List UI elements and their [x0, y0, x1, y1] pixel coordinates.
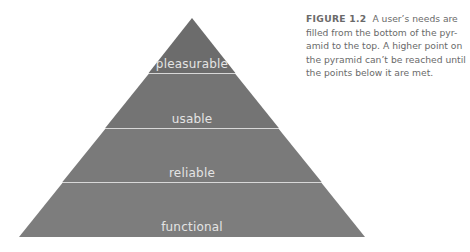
level-label-reliable: reliable	[92, 166, 292, 180]
level-label-functional: functional	[92, 220, 292, 234]
level-label-pleasurable: pleasurable	[92, 57, 292, 71]
level-label-usable: usable	[92, 112, 292, 126]
caption-line: the points below it are met.	[306, 66, 468, 80]
caption-line: the pyramid can’t be reached until	[306, 53, 468, 67]
figure-label: FIGURE 1.2	[306, 13, 367, 24]
figure-caption: FIGURE 1.2 A user’s needs are filled fro…	[306, 12, 468, 80]
caption-line: amid to the top. A higher point on	[306, 39, 468, 53]
caption-text-first: A user’s needs are	[372, 13, 457, 24]
caption-line: filled from the bottom of the pyr-	[306, 26, 468, 40]
